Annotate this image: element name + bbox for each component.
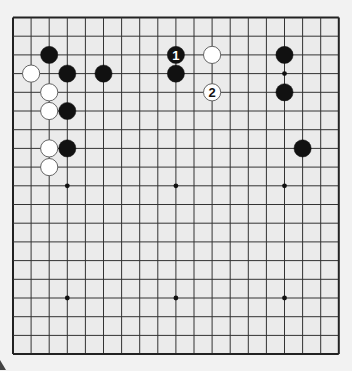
star-point [174, 183, 179, 188]
black-stone [41, 46, 58, 63]
stone-disc [41, 46, 58, 63]
star-point [65, 296, 70, 301]
stone-disc [41, 102, 58, 119]
stone-disc [59, 102, 76, 119]
black-stone: 1 [167, 46, 184, 63]
black-stone [59, 140, 76, 157]
move-number-label: 1 [172, 48, 179, 63]
black-stone [167, 65, 184, 82]
white-stone [41, 84, 58, 101]
star-point [65, 183, 70, 188]
star-point [174, 296, 179, 301]
scan-artifact [0, 360, 6, 370]
black-stone [276, 46, 293, 63]
stone-disc [41, 140, 58, 157]
stone-disc [59, 140, 76, 157]
stone-disc [59, 65, 76, 82]
black-stone [59, 65, 76, 82]
star-point [282, 296, 287, 301]
star-point [282, 71, 287, 76]
stone-disc [276, 46, 293, 63]
move-number-label: 2 [208, 85, 215, 100]
go-board-grid: 12 [0, 0, 352, 371]
white-stone [204, 46, 221, 63]
stone-disc [294, 140, 311, 157]
go-board: 12 [0, 0, 352, 371]
white-stone [41, 159, 58, 176]
stone-disc [41, 84, 58, 101]
stone-disc [23, 65, 40, 82]
black-stone [59, 102, 76, 119]
stone-disc [95, 65, 112, 82]
white-stone: 2 [204, 84, 221, 101]
white-stone [41, 140, 58, 157]
stone-disc [276, 84, 293, 101]
white-stone [41, 102, 58, 119]
stone-disc [167, 65, 184, 82]
black-stone [276, 84, 293, 101]
stone-disc [41, 159, 58, 176]
stone-disc [204, 46, 221, 63]
black-stone [294, 140, 311, 157]
black-stone [95, 65, 112, 82]
white-stone [23, 65, 40, 82]
star-point [282, 183, 287, 188]
